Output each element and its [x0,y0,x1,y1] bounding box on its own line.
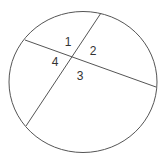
chord-2 [26,13,101,126]
angle-label-1: 1 [65,35,72,49]
circle-chords-diagram: 1 2 3 4 [0,0,165,160]
angle-label-4: 4 [52,55,59,69]
angle-label-3: 3 [77,69,84,83]
angle-label-2: 2 [90,44,97,58]
